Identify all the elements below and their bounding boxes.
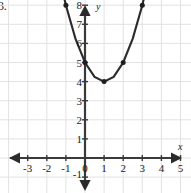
x-tick-label: -2 (37, 163, 57, 174)
x-axis-left-arrowhead (9, 152, 20, 163)
data-point (83, 60, 88, 65)
y-tick-label: -1 (64, 169, 82, 180)
x-tick-label: 1 (94, 163, 114, 174)
x-tick-label: 3 (132, 163, 152, 174)
y-axis-bottom-arrowhead (79, 180, 90, 191)
y-tick-label: 5 (64, 58, 82, 69)
data-point (140, 3, 145, 8)
y-axis-label: y (96, 2, 100, 12)
x-tick-label: -3 (18, 163, 38, 174)
x-tick-label: 5 (171, 163, 191, 174)
y-tick-label: 6 (64, 38, 82, 49)
y-tick-label: 2 (64, 115, 82, 126)
y-tick-label: 4 (64, 77, 82, 88)
x-axis-label: x (178, 142, 182, 152)
data-point (121, 60, 126, 65)
y-tick-label: 3 (64, 96, 82, 107)
x-tick-label: 2 (113, 163, 133, 174)
y-tick-label: 8 (64, 0, 82, 11)
graph-figure: 3. y x -3-2-1012345 -112345678 (0, 0, 191, 193)
data-point (102, 79, 107, 84)
y-tick-label: 1 (64, 134, 82, 145)
y-tick-label: 7 (64, 19, 82, 30)
x-tick-label: 4 (151, 163, 171, 174)
